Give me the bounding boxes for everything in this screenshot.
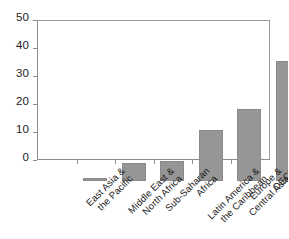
x-axis-tick-mark: [77, 160, 78, 164]
y-axis-tick-label: 30: [16, 68, 29, 80]
y-axis-tick-label: 20: [16, 96, 29, 108]
x-axis-tick-mark: [192, 160, 193, 164]
y-axis-tick-mark: [33, 160, 37, 161]
y-axis-tick-label: 0: [23, 152, 30, 164]
x-axis-labels: East Asia &the PacificMiddle East &North…: [38, 165, 269, 239]
x-axis-tick-mark: [231, 160, 232, 164]
plot-area: [37, 20, 270, 160]
bar: [276, 61, 288, 181]
x-axis-tick-mark: [154, 160, 155, 164]
y-axis-tick-label: 40: [16, 40, 29, 52]
y-axis-tick-label: 50: [16, 12, 29, 24]
y-axis: 01020304050: [0, 20, 37, 161]
bar-chart-figure: 01020304050 East Asia &the PacificMiddle…: [0, 0, 288, 239]
x-axis-tick-mark: [115, 160, 116, 164]
y-axis-tick-label: 10: [16, 124, 29, 136]
bar-slot: [269, 41, 289, 181]
